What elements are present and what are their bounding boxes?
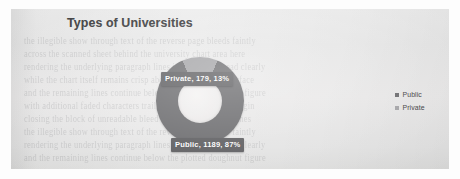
data-label-public: Public, 1189, 87%: [171, 138, 244, 152]
legend-label: Public: [403, 91, 422, 98]
doughnut-chart[interactable]: Types of Universities Private, 179, 13% …: [11, 9, 449, 169]
legend-item-private[interactable]: Private: [395, 104, 425, 111]
legend-swatch-icon: [395, 106, 399, 110]
chart-legend: Public Private: [395, 91, 425, 111]
data-label-private: Private, 179, 13%: [161, 72, 233, 86]
page-content-area: the illegible show through text of the r…: [11, 9, 449, 169]
legend-swatch-icon: [395, 93, 399, 97]
legend-label: Private: [403, 104, 425, 111]
doughnut-plot-area: [156, 57, 244, 145]
chart-title: Types of Universities: [67, 16, 193, 30]
scanned-page: the illegible show through text of the r…: [0, 0, 460, 179]
legend-item-public[interactable]: Public: [395, 91, 425, 98]
